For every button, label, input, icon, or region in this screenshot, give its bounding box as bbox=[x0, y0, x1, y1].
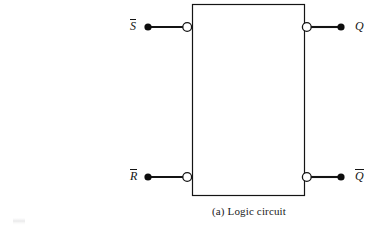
inversion-bubble-r-bar bbox=[183, 173, 192, 182]
terminal-dot-q bbox=[337, 23, 344, 30]
port-label-q-bar-text: Q bbox=[355, 169, 364, 182]
port-label-q: Q bbox=[355, 19, 364, 32]
terminal-dot-r-bar bbox=[144, 173, 151, 180]
circuit-diagram-svg bbox=[0, 0, 373, 233]
port-label-s-bar: S bbox=[130, 19, 136, 32]
inversion-bubble-q-bar bbox=[302, 173, 311, 182]
port-label-q-bar: Q bbox=[355, 169, 364, 182]
inversion-bubble-s-bar bbox=[183, 23, 192, 32]
port-label-s-bar-text: S bbox=[130, 19, 136, 32]
scan-artifact-mark bbox=[13, 218, 25, 225]
port-label-r-bar-text: R bbox=[130, 169, 137, 182]
terminal-dot-s-bar bbox=[144, 23, 151, 30]
terminal-dot-q-bar bbox=[337, 173, 344, 180]
figure-caption: (a) Logic circuit bbox=[168, 205, 330, 217]
logic-circuit-figure: S R Q Q (a) Logic circuit bbox=[0, 0, 373, 233]
port-label-q-text: Q bbox=[355, 19, 364, 32]
inversion-bubble-q bbox=[302, 23, 311, 32]
latch-block-outline bbox=[193, 5, 305, 196]
port-label-r-bar: R bbox=[130, 169, 137, 182]
